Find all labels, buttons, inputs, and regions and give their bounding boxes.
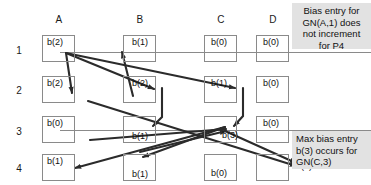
cell-label-b3: b(1)	[132, 131, 148, 141]
annotation-note-bottom: Max bias entry b(3) occurs for GN(C,3)	[292, 131, 371, 169]
column-header-a: A	[42, 14, 76, 25]
cell-label-d1: b(0)	[263, 37, 279, 47]
column-header-c: C	[204, 14, 238, 25]
cell-label-c1: b(0)	[211, 37, 227, 47]
cell-label-b4: b(1)	[132, 169, 148, 179]
cell-label-a1: b(2)	[47, 37, 63, 47]
transition-arrows	[66, 52, 296, 168]
cell-label-a3: b(0)	[47, 118, 63, 128]
row-header-1: 1	[12, 45, 26, 56]
row-header-4: 4	[12, 163, 26, 174]
column-header-b: B	[123, 14, 157, 25]
diagram-canvas: A B C D 1 2 3 4 b(2) b(1) b(0) b(0) b(2)…	[0, 0, 371, 185]
annotation-note-top: Bias entry for GN(A,1) does not incremen…	[292, 3, 371, 49]
cell-label-c4: b(0)	[211, 168, 227, 178]
cell-label-c3: b(3)	[222, 130, 238, 140]
row-header-3: 3	[12, 126, 26, 137]
cell-label-a2: b(2)	[47, 78, 63, 88]
cell-label-c2: b(1)	[211, 78, 227, 88]
cell-box-d4[interactable]	[256, 154, 289, 181]
cell-label-d2: b(0)	[263, 78, 279, 88]
cell-label-d3: b(0)	[263, 118, 279, 128]
column-header-d: D	[256, 14, 290, 25]
cell-label-b2: b(2)	[132, 78, 148, 88]
cell-label-a4: b(1)	[47, 156, 63, 166]
cell-label-b1: b(1)	[132, 37, 148, 47]
row-header-2: 2	[12, 85, 26, 96]
